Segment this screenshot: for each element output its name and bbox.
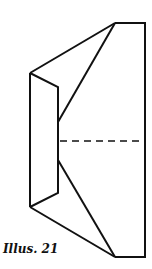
figure-caption: Illus. 21 [3, 242, 58, 256]
top-outer-edge [30, 23, 115, 73]
left-strip-inner-edge [30, 73, 58, 207]
panel-outline [115, 23, 145, 257]
illustration-canvas: Illus. 21 [0, 0, 152, 269]
top-diagonal-fold [58, 23, 115, 122]
bottom-diagonal-fold [58, 160, 115, 257]
folding-diagram [0, 0, 152, 269]
